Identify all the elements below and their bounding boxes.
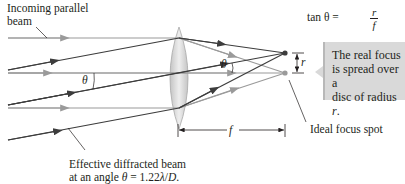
theta-arc-right bbox=[232, 63, 233, 73]
diffracted-beam-label: Effective diffracted beam at an angle θ … bbox=[69, 158, 186, 184]
ideal-focus-leader bbox=[289, 80, 306, 122]
theta-label-left: θ bbox=[82, 74, 88, 87]
tan-theta-equation: tan θ = bbox=[307, 11, 339, 24]
theta-arc-left bbox=[93, 73, 94, 89]
ideal-focus-label: Ideal focus spot bbox=[310, 123, 383, 136]
incoming-leader bbox=[36, 27, 47, 38]
ideal-focus-dot bbox=[282, 70, 287, 75]
diffracted-leader bbox=[68, 128, 85, 150]
theta-label-right: θ bbox=[221, 58, 227, 71]
f-label: f bbox=[229, 124, 232, 137]
lens bbox=[170, 27, 188, 129]
incoming-beam-label: Incoming parallel beam bbox=[7, 2, 88, 28]
diffracted-rays bbox=[8, 38, 285, 140]
real-focus-callout: The real focus is spread over a disc of … bbox=[323, 42, 405, 100]
real-focus-dot bbox=[282, 50, 287, 55]
r-over-f-fraction: r f bbox=[370, 6, 378, 31]
r-label: r bbox=[301, 56, 305, 69]
callout-pointer bbox=[315, 66, 323, 78]
